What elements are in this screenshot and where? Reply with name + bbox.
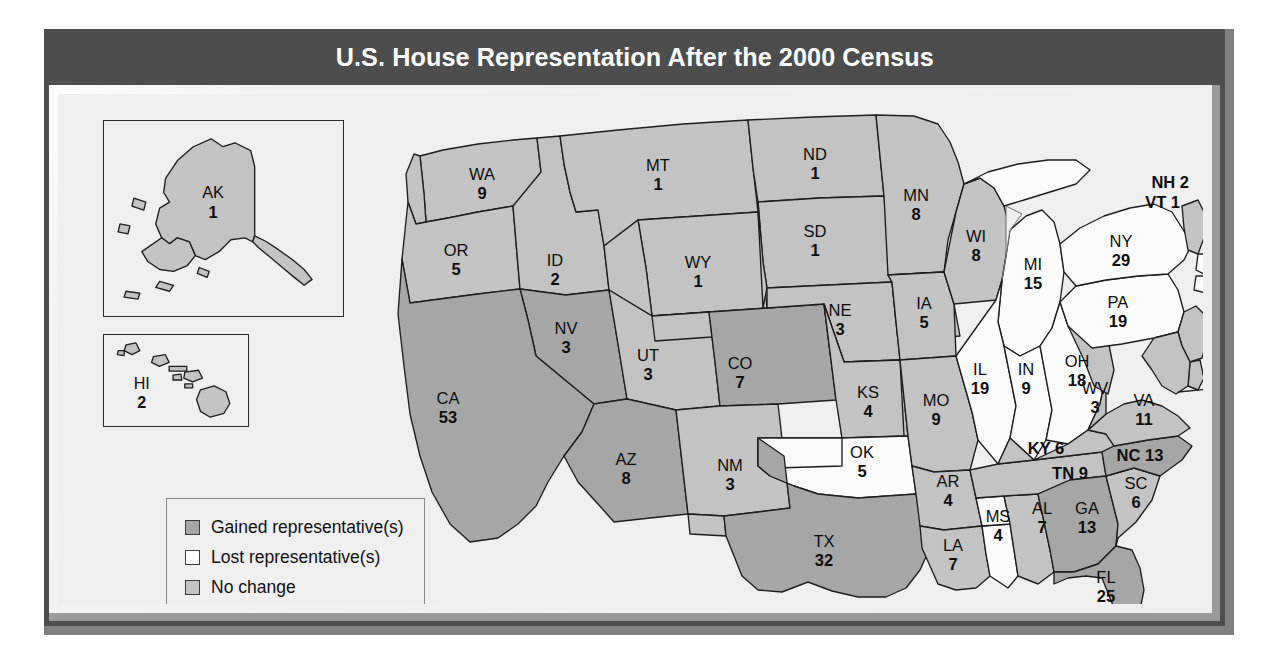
- label-ak-abbr: AK: [202, 183, 224, 201]
- state-hi-molokai: [169, 366, 187, 371]
- label-nv-seats: 3: [561, 338, 570, 356]
- label-id-seats: 2: [550, 270, 559, 288]
- label-az-abbr: AZ: [615, 450, 636, 468]
- legend: Gained representative(s) Lost representa…: [166, 498, 425, 604]
- label-ny-abbr: NY: [1110, 232, 1133, 250]
- title-bar: U.S. House Representation After the 2000…: [44, 29, 1225, 85]
- label-ne-abbr: NE: [829, 301, 852, 319]
- state-ak-aleutians-1: [142, 238, 195, 272]
- label-co-abbr: CO: [728, 354, 753, 372]
- label-il-seats: 19: [971, 379, 989, 397]
- map-panel-shadow: WA 9 OR 5 ID 2 MT 1 WY: [49, 85, 1220, 621]
- label-fl-seats: 25: [1097, 587, 1115, 604]
- state-sd[interactable]: [758, 196, 892, 288]
- label-ar-abbr: AR: [937, 472, 960, 490]
- page-title: U.S. House Representation After the 2000…: [335, 42, 933, 73]
- legend-swatch-lost: [185, 550, 200, 565]
- label-ut-abbr: UT: [637, 346, 659, 364]
- label-tx-seats: 32: [815, 551, 833, 569]
- label-or-abbr: OR: [444, 241, 469, 259]
- label-in-abbr: IN: [1018, 360, 1035, 378]
- label-oh-abbr: OH: [1065, 352, 1090, 370]
- legend-label-no-change: No change: [211, 577, 296, 598]
- alaska-inset[interactable]: AK 1: [103, 120, 344, 317]
- label-ms-seats: 4: [993, 526, 1003, 544]
- state-hi-niihau: [117, 351, 124, 356]
- figure-border: U.S. House Representation After the 2000…: [44, 29, 1225, 626]
- alaska-map: AK 1: [104, 121, 343, 316]
- state-nm-bootheel: [688, 514, 726, 536]
- label-ne-seats: 3: [835, 320, 844, 338]
- legend-item-gained[interactable]: Gained representative(s): [185, 512, 424, 542]
- label-mn-seats: 8: [911, 205, 920, 223]
- label-nm-abbr: NM: [717, 456, 743, 474]
- state-hi-oahu: [152, 355, 170, 367]
- label-pa-seats: 19: [1109, 312, 1127, 330]
- label-wv-seats: 3: [1090, 398, 1099, 416]
- state-ct[interactable]: [1194, 276, 1203, 294]
- state-hi-hawaii: [197, 386, 230, 417]
- label-ia-seats: 5: [919, 313, 928, 331]
- label-wi-abbr: WI: [966, 227, 986, 245]
- label-nh: NH 2: [1151, 173, 1189, 191]
- label-ny-seats: 29: [1112, 251, 1130, 269]
- label-wy-abbr: WY: [685, 253, 712, 271]
- legend-swatch-gained: [185, 520, 200, 535]
- hawaii-inset[interactable]: HI 2: [103, 334, 249, 427]
- label-nd-abbr: ND: [803, 145, 827, 163]
- label-ia-abbr: IA: [916, 294, 932, 312]
- label-il-abbr: IL: [973, 360, 987, 378]
- state-ak-island-5: [124, 291, 140, 299]
- state-ak-panhandle: [253, 236, 312, 285]
- legend-label-gained: Gained representative(s): [211, 517, 404, 538]
- label-ut-seats: 3: [643, 365, 652, 383]
- label-al-abbr: AL: [1032, 499, 1052, 517]
- label-nv-abbr: NV: [555, 319, 578, 337]
- label-wa-seats: 9: [477, 184, 486, 202]
- label-sc-abbr: SC: [1125, 474, 1148, 492]
- label-sc-seats: 6: [1131, 493, 1140, 511]
- label-la-seats: 7: [948, 555, 957, 573]
- label-ks-abbr: KS: [857, 383, 879, 401]
- state-hi-lanai: [173, 374, 182, 380]
- label-co-seats: 7: [735, 373, 744, 391]
- label-sd-abbr: SD: [804, 222, 827, 240]
- label-mn-abbr: MN: [903, 186, 929, 204]
- label-mo-seats: 9: [931, 410, 940, 428]
- label-fl-abbr: FL: [1096, 568, 1115, 586]
- label-ca-abbr: CA: [437, 389, 460, 407]
- state-ak-island-4: [156, 281, 174, 291]
- label-tx-abbr: TX: [813, 532, 834, 550]
- label-wy-seats: 1: [693, 272, 702, 290]
- label-ok-seats: 5: [857, 462, 866, 480]
- label-va-seats: 11: [1135, 410, 1152, 428]
- label-ga-abbr: GA: [1075, 499, 1099, 517]
- label-in-seats: 9: [1021, 379, 1030, 397]
- state-hi-kauai: [124, 343, 140, 355]
- label-ca-seats: 53: [439, 408, 457, 426]
- label-wi-seats: 8: [971, 246, 980, 264]
- label-ky: KY 6: [1028, 439, 1064, 457]
- label-ms-abbr: MS: [986, 507, 1011, 525]
- legend-label-lost: Lost representative(s): [211, 547, 380, 568]
- label-nm-seats: 3: [725, 475, 734, 493]
- label-or-seats: 5: [451, 260, 460, 278]
- label-pa-abbr: PA: [1108, 293, 1129, 311]
- label-az-seats: 8: [621, 469, 630, 487]
- label-ar-seats: 4: [943, 491, 953, 509]
- figure-shadow-plate: U.S. House Representation After the 2000…: [44, 29, 1234, 635]
- state-hi-kahoolawe: [185, 384, 193, 388]
- label-ga-seats: 13: [1078, 518, 1096, 536]
- legend-swatch-no-change: [185, 580, 200, 595]
- label-mt-seats: 1: [653, 175, 662, 193]
- hawaii-map: HI 2: [104, 335, 248, 426]
- state-ma[interactable]: [1196, 254, 1203, 276]
- label-mt-abbr: MT: [646, 156, 670, 174]
- state-ak-island-2: [118, 224, 130, 234]
- label-hi-seats: 2: [137, 393, 146, 411]
- label-hi-abbr: HI: [134, 374, 150, 392]
- label-wa-abbr: WA: [469, 165, 495, 183]
- legend-item-lost[interactable]: Lost representative(s): [185, 542, 424, 572]
- label-nd-seats: 1: [810, 164, 819, 182]
- legend-item-no-change[interactable]: No change: [185, 572, 424, 602]
